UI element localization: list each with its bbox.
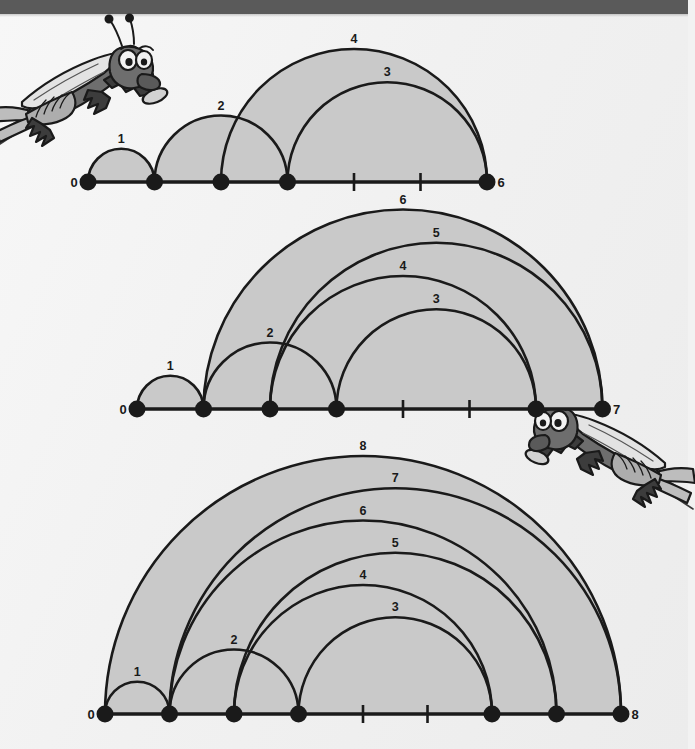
arc-label-1: 1 <box>167 359 174 373</box>
number-line-dot-8[interactable] <box>613 706 630 723</box>
number-line-dot-6[interactable] <box>528 401 545 418</box>
endpoint-label-left: 0 <box>119 402 126 417</box>
number-line-dot-0[interactable] <box>129 401 146 418</box>
arc-fill <box>204 210 603 409</box>
number-line-dot-3[interactable] <box>290 706 307 723</box>
arc-fill <box>88 149 155 182</box>
arc-label-2: 2 <box>231 633 238 647</box>
arc-label-3: 3 <box>433 292 440 306</box>
arc-label-1: 1 <box>118 132 125 146</box>
arc-diagram-svg-2: 12345607 <box>0 200 688 425</box>
number-line-dot-6[interactable] <box>484 706 501 723</box>
number-line-dot-7[interactable] <box>548 706 565 723</box>
arc-fill <box>137 376 204 409</box>
endpoint-label-left: 0 <box>87 707 94 722</box>
number-line-dot-7[interactable] <box>594 401 611 418</box>
arc-label-3: 3 <box>392 600 399 614</box>
arc-label-2: 2 <box>218 99 225 113</box>
arc-label-3: 3 <box>384 65 391 79</box>
arc-diagram-3: 1234567808 <box>0 430 688 735</box>
arc-label-5: 5 <box>392 536 399 550</box>
number-line-dot-2[interactable] <box>213 174 230 191</box>
arc-diagram-2: 12345607 <box>0 200 688 425</box>
arc-label-2: 2 <box>267 326 274 340</box>
arc-label-5: 5 <box>433 226 440 240</box>
arc-label-4: 4 <box>400 259 407 273</box>
number-line-dot-2[interactable] <box>262 401 279 418</box>
arc-diagram-svg-1: 123406 <box>0 20 688 200</box>
arc-label-8: 8 <box>360 439 367 453</box>
arc-label-7: 7 <box>392 471 399 485</box>
endpoint-label-right: 6 <box>497 175 504 190</box>
number-line-dot-1[interactable] <box>146 174 163 191</box>
number-line-dot-3[interactable] <box>279 174 296 191</box>
number-line-dot-1[interactable] <box>195 401 212 418</box>
arc-label-1: 1 <box>134 665 141 679</box>
number-line-dot-0[interactable] <box>97 706 114 723</box>
arc-label-4: 4 <box>360 568 367 582</box>
top-band <box>0 0 688 14</box>
arc-diagram-svg-3: 1234567808 <box>0 430 688 735</box>
number-line-dot-6[interactable] <box>479 174 496 191</box>
number-line-dot-0[interactable] <box>80 174 97 191</box>
endpoint-label-right: 8 <box>631 707 638 722</box>
number-line-dot-1[interactable] <box>161 706 178 723</box>
number-line-dot-3[interactable] <box>328 401 345 418</box>
arc-diagram-1: 123406 <box>0 20 688 200</box>
arc-label-6: 6 <box>400 193 407 207</box>
endpoint-label-right: 7 <box>613 402 620 417</box>
number-line-dot-2[interactable] <box>226 706 243 723</box>
endpoint-label-left: 0 <box>70 175 77 190</box>
arc-label-4: 4 <box>351 32 358 46</box>
arc-label-6: 6 <box>360 504 367 518</box>
arc-fill <box>221 49 487 182</box>
